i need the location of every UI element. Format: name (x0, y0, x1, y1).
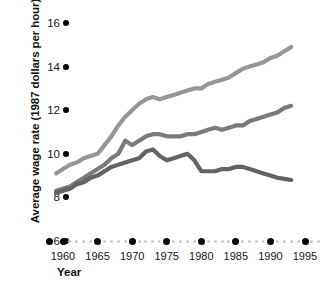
x-tick-marker-major (163, 238, 170, 245)
x-tick-marker-minor (144, 240, 147, 243)
x-tick-marker-minor (207, 240, 210, 243)
x-axis-title: Year (57, 266, 81, 278)
x-tick-marker-minor (221, 240, 224, 243)
x-tick-marker-minor (227, 240, 230, 243)
x-tick-marker-minor (117, 240, 120, 243)
x-tick-marker-minor (138, 240, 141, 243)
x-tick-marker-minor (290, 240, 293, 243)
x-tick-marker-minor (276, 240, 279, 243)
chart-container: Average wage rate (1987 dollars per hour… (0, 0, 329, 283)
x-tick-label: 1995 (285, 250, 325, 262)
x-tick-marker-minor (124, 240, 127, 243)
x-tick-marker-minor (89, 240, 92, 243)
x-tick-marker-minor (283, 240, 286, 243)
x-tick-marker-minor (193, 240, 196, 243)
x-axis-rail (56, 238, 312, 246)
x-tick-marker-minor (248, 240, 251, 243)
x-tick-marker-major (302, 238, 309, 245)
x-tick-marker-minor (75, 240, 78, 243)
x-tick-marker-minor (255, 240, 258, 243)
x-tick-marker-minor (262, 240, 265, 243)
x-tick-marker-minor (151, 240, 154, 243)
x-tick-marker-minor (68, 240, 71, 243)
x-tick-marker-major (198, 238, 205, 245)
x-tick-marker-minor (110, 240, 113, 243)
x-tick-marker-major (267, 238, 274, 245)
x-axis-origin-marker (46, 238, 53, 245)
x-tick-marker-minor (179, 240, 182, 243)
x-tick-marker-minor (186, 240, 189, 243)
x-tick-marker-minor (214, 240, 217, 243)
x-tick-marker-major (60, 238, 67, 245)
x-tick-marker-minor (241, 240, 244, 243)
x-tick-marker-minor (82, 240, 85, 243)
x-tick-marker-minor (172, 240, 175, 243)
x-tick-marker-major (129, 238, 136, 245)
x-tick-marker-minor (103, 240, 106, 243)
x-tick-marker-major (232, 238, 239, 245)
x-tick-marker-minor (158, 240, 161, 243)
series-line-upper-series (56, 47, 291, 173)
x-tick-marker-minor (297, 240, 300, 243)
x-tick-marker-major (94, 238, 101, 245)
